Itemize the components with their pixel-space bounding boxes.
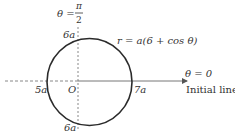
label-left-5a: 5a <box>35 84 47 95</box>
theta-pi-over-2-num: π <box>75 1 83 11</box>
theta-pi-over-2-lhs: θ = <box>57 8 75 19</box>
theta-zero-label: θ = 0 <box>185 68 213 79</box>
label-top-6a: 6a <box>63 29 75 40</box>
label-right-7a: 7a <box>134 84 146 95</box>
curve-equation: r = a(6 + cos θ) <box>117 35 197 46</box>
pole-label: O <box>68 84 76 95</box>
polar-curve <box>47 39 132 126</box>
polar-diagram: θ = π 2 6a 6a 5a 7a O r = a(6 + cos θ) θ… <box>0 0 235 133</box>
theta-pi-over-2-den: 2 <box>76 15 82 25</box>
initial-line-label: Initial line <box>186 84 235 95</box>
label-bottom-6a: 6a <box>64 122 76 133</box>
